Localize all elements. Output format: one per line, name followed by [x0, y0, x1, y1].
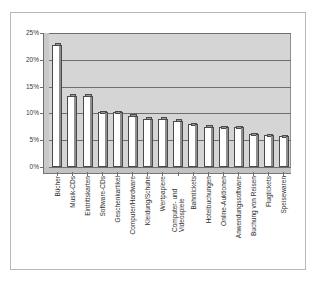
bar-side-face — [74, 96, 77, 167]
category-label: Computer- und Videospiele — [171, 176, 185, 232]
y-tick-label: 0% — [30, 164, 39, 171]
bar-slot — [249, 33, 257, 174]
category-label-slot: Eintrittskarten — [79, 176, 94, 268]
category-label-slot: Hotelbuchungen — [200, 176, 215, 268]
bar-side-face — [180, 121, 183, 167]
y-tick-label: 10% — [26, 110, 39, 117]
y-tick-mark — [40, 87, 43, 88]
category-label: Musik-CDs — [68, 176, 75, 208]
bar-slot — [98, 33, 106, 174]
bar[interactable] — [173, 121, 181, 167]
bar-slot — [264, 33, 272, 174]
category-label-slot: Online-Auktionen — [215, 176, 230, 268]
y-tick-mark — [40, 33, 43, 34]
bar-side-face — [165, 119, 168, 167]
category-label-slot: Musik-CDs — [64, 176, 79, 268]
bar[interactable] — [143, 119, 151, 167]
bar-slot — [113, 33, 121, 174]
bar-side-face — [90, 96, 93, 167]
bar[interactable] — [279, 136, 287, 167]
bar-slot — [83, 33, 91, 174]
bar[interactable] — [52, 45, 60, 167]
bar[interactable] — [188, 124, 196, 167]
bar-series — [49, 33, 291, 174]
bar-slot — [204, 33, 212, 174]
bar-slot — [188, 33, 196, 174]
bar-side-face — [286, 136, 289, 167]
bar[interactable] — [204, 127, 212, 167]
category-label: Bahntickets — [189, 176, 196, 210]
bar[interactable] — [83, 96, 91, 167]
bar[interactable] — [249, 134, 257, 167]
bar-slot — [67, 33, 75, 174]
category-label-slot: Wertpapiere — [155, 176, 170, 268]
category-label: Wertpapiere — [159, 176, 166, 211]
category-label-slot: Software-CDs — [94, 176, 109, 268]
category-label: Buchung von Reisen — [250, 176, 257, 236]
category-label-slot: Computer/Hardware — [125, 176, 140, 268]
y-tick-mark — [40, 140, 43, 141]
category-label: Kleidung/Schuhe — [144, 176, 151, 225]
category-label: Online-Auktionen — [219, 176, 226, 226]
category-label: Anwendungssoftware — [235, 176, 242, 238]
bar[interactable] — [128, 116, 136, 167]
bar-slot — [128, 33, 136, 174]
category-label: Software-CDs — [98, 176, 105, 216]
bar-slot — [143, 33, 151, 174]
category-label: Speisewaren — [280, 176, 287, 214]
bar-slot — [173, 33, 181, 174]
bar-side-face — [195, 124, 198, 167]
category-label-slot: Buchung von Reisen — [246, 176, 261, 268]
bar[interactable] — [264, 135, 272, 167]
bar-side-face — [211, 127, 214, 167]
bar-slot — [52, 33, 60, 174]
plot-area: 25%20%15%10%5%0% — [43, 33, 291, 173]
category-label: Hotelbuchungen — [204, 176, 211, 223]
bar[interactable] — [158, 119, 166, 167]
bar-side-face — [241, 127, 244, 167]
y-tick-label: 25% — [26, 30, 39, 37]
bar-slot — [279, 33, 287, 174]
category-label: Geschenkartikel — [114, 176, 121, 223]
category-label: Bücher — [53, 176, 60, 197]
bar-side-face — [150, 119, 153, 167]
y-tick-mark — [40, 167, 43, 168]
y-tick-label: 20% — [26, 57, 39, 64]
category-label-slot: Bücher — [49, 176, 64, 268]
bar-side-face — [256, 134, 259, 167]
y-tick-label: 5% — [30, 137, 39, 144]
category-label-slot: Anwendungssoftware — [231, 176, 246, 268]
category-label-slot: Speisewaren — [276, 176, 291, 268]
category-label-slot: Kleidung/Schuhe — [140, 176, 155, 268]
bar-slot — [158, 33, 166, 174]
bar-side-face — [271, 135, 274, 167]
bar-side-face — [59, 45, 62, 167]
category-label: Eintrittskarten — [83, 176, 90, 216]
bar[interactable] — [98, 112, 106, 167]
y-tick-mark — [40, 113, 43, 114]
bar[interactable] — [67, 96, 75, 167]
category-label-slot: Bahntickets — [185, 176, 200, 268]
category-axis-labels: BücherMusik-CDsEintrittskartenSoftware-C… — [49, 176, 297, 268]
category-label: Flugtickets — [265, 176, 272, 207]
bar-side-face — [226, 127, 229, 167]
bar[interactable] — [219, 127, 227, 167]
y-tick-mark — [40, 60, 43, 61]
bar-slot — [219, 33, 227, 174]
bar[interactable] — [113, 112, 121, 167]
category-label-slot: Flugtickets — [261, 176, 276, 268]
bar-slot — [234, 33, 242, 174]
category-label-slot: Computer- und Videospiele — [170, 176, 185, 268]
chart-figure: 25%20%15%10%5%0% BücherMusik-CDsEintritt… — [10, 12, 306, 270]
bar[interactable] — [234, 127, 242, 167]
y-tick-label: 15% — [26, 83, 39, 90]
bar-side-face — [135, 116, 138, 167]
category-label: Computer/Hardware — [129, 176, 136, 235]
category-label-slot: Geschenkartikel — [110, 176, 125, 268]
bar-side-face — [120, 112, 123, 167]
bar-side-face — [105, 112, 108, 167]
value-axis — [43, 33, 44, 174]
